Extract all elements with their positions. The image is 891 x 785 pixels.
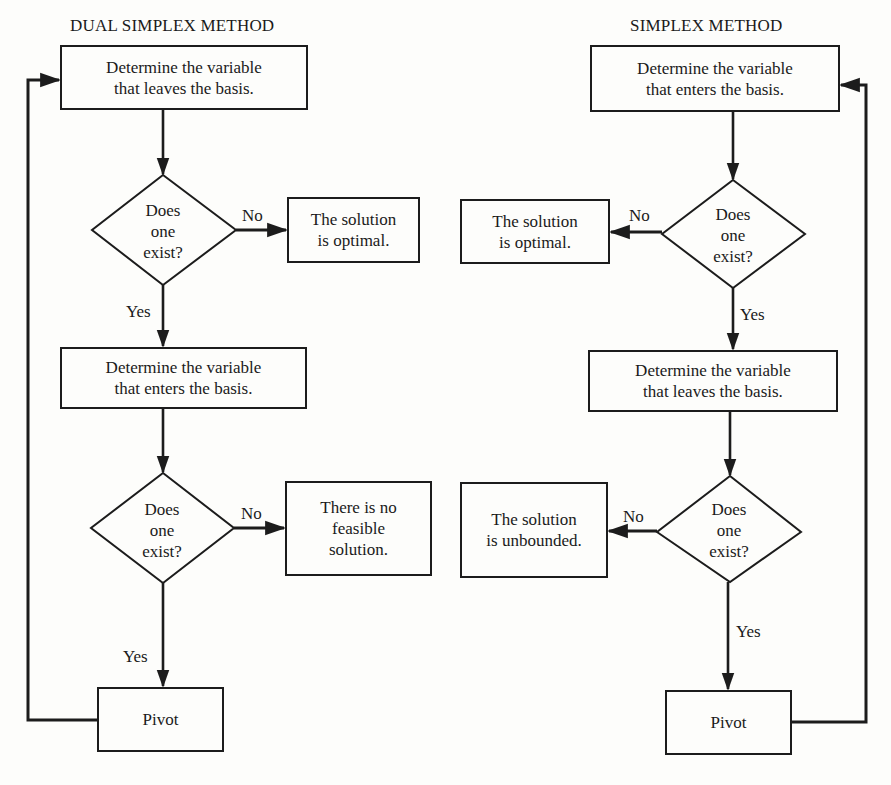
simplex-decision1-no-label: No — [629, 206, 650, 226]
dual-decision1-no-label: No — [242, 206, 263, 226]
simplex-step1-box: Determine the variable that enters the b… — [590, 45, 840, 112]
simplex-decision1-yes-label: Yes — [740, 305, 765, 325]
simplex-decision2-no-label: No — [623, 507, 644, 527]
dual-decision2-line1: Does — [142, 499, 182, 520]
simplex-outcome-optimal-box: The solution is optimal. — [460, 199, 610, 264]
simplex-title: SIMPLEX METHOD — [630, 16, 783, 36]
simplex-step2-line2: that leaves the basis. — [635, 381, 791, 402]
simplex-decision2-line2: one — [709, 520, 749, 541]
dual-outcome1-line1: The solution — [311, 209, 396, 230]
simplex-decision2-line1: Does — [709, 499, 749, 520]
dual-step2-box: Determine the variable that enters the b… — [60, 347, 307, 409]
dual-outcome2-line1: There is no — [320, 497, 396, 518]
dual-outcome-optimal-box: The solution is optimal. — [287, 197, 420, 263]
dual-step2-line2: that enters the basis. — [106, 378, 262, 399]
dual-decision2-text: Does one exist? — [142, 499, 182, 562]
dual-decision1-line3: exist? — [143, 242, 183, 263]
dual-decision2-line2: one — [142, 520, 182, 541]
dual-step1-line1: Determine the variable — [106, 57, 262, 78]
simplex-step1-line1: Determine the variable — [637, 58, 793, 79]
dual-decision2-line3: exist? — [142, 541, 182, 562]
simplex-outcome1-line2: is optimal. — [492, 232, 577, 253]
simplex-decision1-line3: exist? — [713, 246, 753, 267]
simplex-step2-line1: Determine the variable — [635, 360, 791, 381]
dual-pivot-label: Pivot — [143, 709, 179, 730]
simplex-outcome-unbounded-box: The solution is unbounded. — [460, 482, 608, 578]
simplex-outcome2-line1: The solution — [486, 509, 581, 530]
simplex-decision1-text: Does one exist? — [713, 204, 753, 267]
dual-step2-line1: Determine the variable — [106, 357, 262, 378]
simplex-outcome2-line2: is unbounded. — [486, 530, 581, 551]
simplex-pivot-label: Pivot — [711, 712, 747, 733]
dual-outcome-infeasible-box: There is no feasible solution. — [285, 481, 432, 576]
dual-step1-line2: that leaves the basis. — [106, 78, 262, 99]
dual-outcome2-line2: feasible — [320, 518, 396, 539]
dual-decision2-yes-label: Yes — [123, 647, 148, 667]
simplex-decision2-line3: exist? — [709, 541, 749, 562]
dual-decision1-text: Does one exist? — [143, 200, 183, 263]
dual-decision2-no-label: No — [241, 504, 262, 524]
simplex-decision2-text: Does one exist? — [709, 499, 749, 562]
simplex-decision1-line2: one — [713, 225, 753, 246]
dual-outcome1-line2: is optimal. — [311, 230, 396, 251]
simplex-outcome1-line1: The solution — [492, 211, 577, 232]
dual-step1-box: Determine the variable that leaves the b… — [60, 45, 308, 110]
simplex-step2-box: Determine the variable that leaves the b… — [588, 350, 838, 412]
dual-decision1-line1: Does — [143, 200, 183, 221]
dual-outcome2-line3: solution. — [320, 539, 396, 560]
dual-decision1-line2: one — [143, 221, 183, 242]
simplex-pivot-box: Pivot — [665, 690, 792, 755]
simplex-decision1-line1: Does — [713, 204, 753, 225]
dual-decision1-yes-label: Yes — [126, 302, 151, 322]
dual-simplex-title: DUAL SIMPLEX METHOD — [70, 16, 274, 36]
simplex-decision2-yes-label: Yes — [736, 622, 761, 642]
simplex-step1-line2: that enters the basis. — [637, 79, 793, 100]
dual-pivot-box: Pivot — [97, 687, 224, 752]
